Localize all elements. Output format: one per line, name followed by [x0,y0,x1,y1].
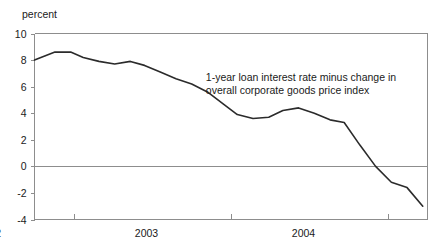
y-tick-label: 10 [15,28,27,40]
x-tick-label: 2004 [292,227,316,239]
y-axis-ticks: 1086420-2-4 [15,28,35,226]
y-tick-label: -2 [17,187,26,199]
series-annotation: 1-year loan interest rate minus change i… [206,71,396,96]
x-axis-ticks: 200220032004 [0,214,389,239]
plot-frame [35,34,428,220]
annotation-text-line-2: overall corporate goods price index [206,84,370,96]
x-tick-label: 2002 [0,227,1,239]
chart-page: percent 1086420-2-4 200220032004 1-year … [0,0,444,252]
y-tick-label: 4 [21,107,27,119]
line-chart: percent 1086420-2-4 200220032004 1-year … [0,0,444,252]
y-tick-label: 8 [21,54,27,66]
y-tick-label: 2 [21,134,27,146]
x-tick-label: 2003 [135,227,159,239]
annotation-text-line-1: 1-year loan interest rate minus change i… [206,71,396,83]
y-tick-label: 0 [21,160,27,172]
y-axis-unit-label: percent [22,8,57,20]
y-tick-label: 6 [21,81,27,93]
y-tick-label: -4 [17,214,26,226]
